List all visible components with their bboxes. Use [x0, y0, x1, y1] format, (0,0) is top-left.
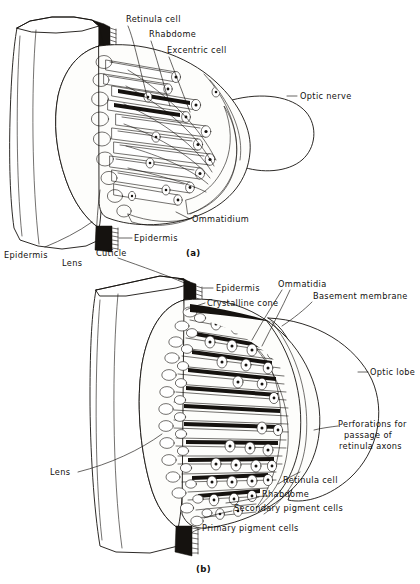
label-lens-b: Lens [50, 467, 70, 477]
label-rhabdome-a: Rhabdome [149, 29, 196, 39]
label-epidermis-right-a: Epidermis [134, 233, 178, 243]
label-optic-nerve-a: Optic nerve [300, 91, 352, 101]
compound-eye-figure: Retinula cell Rhabdome Excentric cell Op… [0, 0, 420, 584]
label-excentric-cell-a: Excentric cell [167, 45, 227, 55]
label-retinula-cell-b: Retinula cell [283, 475, 338, 485]
label-basement-membrane-b: Basement membrane [313, 291, 408, 301]
cuticle-band-b [175, 526, 192, 556]
label-ommatidia-b: Ommatidia [278, 279, 327, 289]
label-primary-pigment-cells-b: Primary pigment cells [202, 523, 299, 533]
label-rhabdome-b: Rhabdome [262, 489, 309, 499]
label-ommatidium-a: Ommatidium [192, 214, 249, 224]
label-lens-a: Lens [62, 258, 82, 268]
label-optic-lobe-b: Optic lobe [370, 367, 415, 377]
label-perforations-line-1-b: Perforations for [338, 419, 407, 429]
label-epidermis-left-a: Epidermis [4, 250, 48, 260]
label-crystalline-cone-b: Crystalline cone [207, 298, 278, 308]
caption-a: (a) [186, 248, 201, 258]
figure-canvas: Retinula cell Rhabdome Excentric cell Op… [0, 0, 420, 584]
label-cuticle-a: Cuticle [96, 248, 127, 258]
caption-b: (b) [196, 564, 211, 574]
label-epidermis-b: Epidermis [216, 283, 260, 293]
label-secondary-pigment-cells-b: Secondary pigment cells [234, 503, 343, 513]
label-perforations-line-3-b: retinula axons [339, 441, 402, 451]
label-retinula-cell-a: Retinula cell [126, 14, 181, 24]
label-perforations-line-2-b: passage of [344, 430, 393, 440]
